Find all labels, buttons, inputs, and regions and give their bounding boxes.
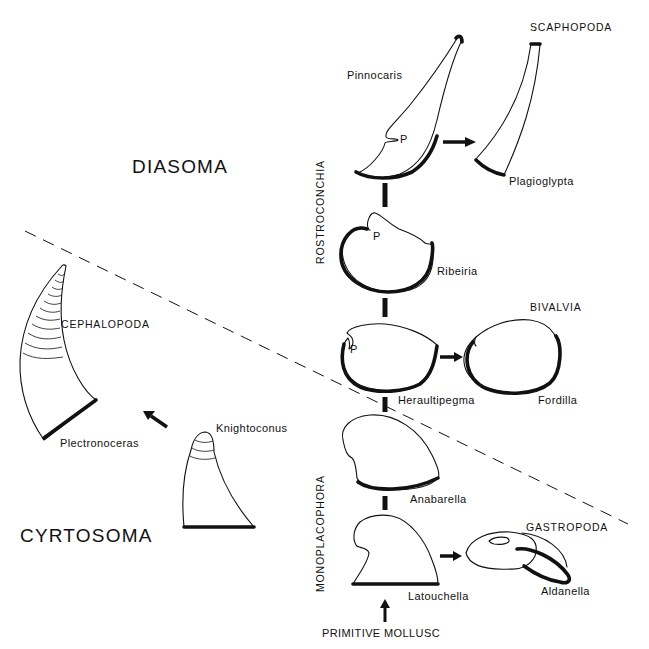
pegma-marker-heraultipegma: P	[350, 343, 358, 355]
pegma-marker-ribeiria: P	[373, 230, 381, 242]
arrow-to-gastropoda	[440, 551, 462, 561]
knightoconus-shell	[183, 432, 254, 527]
ribeiria-shell	[341, 213, 433, 292]
class-label-rostroconchia: ROSTROCONCHIA	[314, 160, 326, 264]
class-label-gastropoda: GASTROPODA	[526, 521, 608, 533]
mollusc-phylogeny-diagram: DIASOMA CYRTOSOMA ROSTROCONCHIA MONOPLAC…	[0, 0, 649, 649]
genus-label-fordilla: Fordilla	[538, 394, 578, 406]
class-label-bivalvia: BIVALVIA	[530, 301, 582, 313]
plagioglypta-shell	[476, 44, 540, 175]
fordilla-shell	[464, 320, 560, 394]
genus-label-plagioglypta: Plagioglypta	[509, 175, 574, 187]
arrow-to-bivalvia	[440, 352, 463, 362]
class-label-monoplacophora: MONOPLACOPHORA	[314, 475, 326, 592]
genus-label-anabarella: Anabarella	[410, 493, 467, 505]
plectronoceras-shell	[20, 265, 96, 440]
class-label-cephalopoda: CEPHALOPODA	[61, 318, 150, 330]
genus-label-aldanella: Aldanella	[541, 585, 590, 597]
genus-label-ribeiria: Ribeiria	[437, 265, 478, 277]
latouchella-shell	[353, 515, 438, 584]
heraultipegma-shell	[342, 324, 437, 391]
arrow-up-from-primitive-mollusc	[380, 599, 390, 622]
pinnocaris-shell	[356, 36, 462, 178]
root-label-primitive-mollusc: PRIMITIVE MOLLUSC	[322, 627, 440, 639]
subphylum-label-cyrtosoma: CYRTOSOMA	[20, 525, 153, 546]
arrow-to-scaphopoda	[443, 137, 476, 147]
pegma-marker-pinnocaris: P	[400, 133, 408, 145]
arrow-to-cephalopoda	[143, 411, 167, 427]
anabarella-shell	[342, 415, 438, 490]
genus-label-plectronoceras: Plectronoceras	[60, 437, 139, 449]
aldanella-shell	[466, 532, 569, 583]
genus-label-heraultipegma: Heraultipegma	[398, 394, 475, 406]
subphylum-label-diasoma: DIASOMA	[132, 156, 228, 177]
genus-label-latouchella: Latouchella	[408, 590, 469, 602]
genus-label-pinnocaris: Pinnocaris	[347, 69, 402, 81]
subphylum-divider-dashed-line	[25, 231, 628, 524]
genus-label-knightoconus: Knightoconus	[216, 422, 288, 434]
class-label-scaphopoda: SCAPHOPODA	[530, 21, 612, 33]
